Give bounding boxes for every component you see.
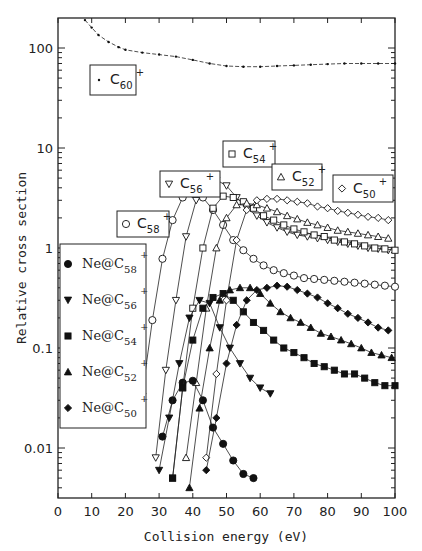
series-line: [173, 294, 395, 479]
square-marker: [341, 371, 347, 377]
diamond-marker: [223, 360, 230, 367]
dot-marker: [360, 62, 362, 64]
dot-marker: [192, 59, 194, 61]
square-marker: [301, 355, 307, 361]
triangle-up-marker: [297, 319, 304, 325]
triangle-up-marker: [287, 314, 294, 320]
triangle-up-marker: [213, 244, 220, 250]
x-tick-label: 0: [54, 504, 62, 519]
triangle-up-marker: [294, 215, 301, 221]
diamond-marker: [314, 203, 321, 210]
circle-marker: [381, 282, 388, 289]
circle-marker: [209, 424, 216, 431]
square-marker: [301, 229, 307, 235]
circle-marker: [220, 440, 227, 447]
circle-marker: [149, 317, 156, 324]
label-box-c58: C58 +: [117, 211, 171, 237]
square-marker: [372, 380, 378, 386]
triangle-down-marker: [257, 385, 264, 391]
square-marker: [250, 319, 256, 325]
diamond-marker: [364, 319, 371, 326]
diamond-marker: [294, 198, 301, 205]
triangle-up-marker: [337, 336, 344, 342]
dot-marker: [141, 51, 143, 53]
circle-marker: [351, 279, 358, 286]
y-axis-title: Relative cross section: [14, 172, 29, 344]
triangle-up-marker: [317, 330, 324, 336]
diamond-marker: [354, 314, 361, 321]
dot-marker: [394, 62, 396, 64]
series-nec54: [170, 291, 399, 482]
square-marker: [362, 375, 368, 381]
square-marker: [210, 205, 216, 211]
square-marker: [341, 239, 347, 245]
triangle-down-marker: [267, 391, 274, 397]
circle-marker: [230, 457, 237, 464]
x-tick-label: 50: [218, 504, 235, 519]
dot-marker: [97, 34, 99, 36]
triangle-down-marker: [253, 213, 260, 219]
triangle-up-marker: [304, 219, 311, 225]
x-tick-label: 10: [83, 504, 100, 519]
square-marker: [230, 297, 236, 303]
triangle-up-marker: [273, 208, 280, 214]
square-marker: [291, 226, 297, 232]
triangle-down-marker: [152, 455, 159, 461]
circle-marker: [361, 280, 368, 287]
triangle-up-marker: [186, 484, 193, 490]
triangle-up-marker: [368, 349, 375, 355]
triangle-up-marker: [358, 344, 365, 350]
square-marker: [200, 305, 206, 311]
diamond-marker: [304, 200, 311, 207]
square-marker: [352, 371, 358, 377]
diamond-marker: [385, 217, 392, 224]
dot-marker: [293, 64, 295, 66]
triangle-down-marker: [236, 361, 243, 367]
y-tick-label: 0.1: [32, 341, 53, 356]
square-marker: [271, 217, 277, 223]
x-tick-label: 20: [117, 504, 134, 519]
triangle-down-marker: [273, 225, 280, 231]
diamond-marker: [263, 195, 270, 202]
diamond-marker: [273, 282, 280, 289]
dot-marker: [242, 66, 244, 68]
circle-marker: [341, 278, 348, 285]
dot-marker: [225, 65, 227, 67]
dot-marker: [98, 79, 100, 81]
square-marker: [230, 194, 236, 200]
square-marker: [291, 350, 297, 356]
diamond-marker: [213, 370, 220, 377]
label-box-c50: C50 +: [333, 175, 393, 202]
square-marker: [261, 327, 267, 333]
x-tick-label: 90: [353, 504, 370, 519]
square-marker: [200, 245, 206, 251]
dot-marker: [84, 19, 86, 21]
series-line: [206, 286, 388, 471]
diamond-marker: [354, 211, 361, 218]
square-marker: [210, 294, 216, 300]
square-marker: [382, 383, 388, 389]
series-nec52: [186, 284, 395, 490]
diamond-marker: [294, 286, 301, 293]
dot-marker: [124, 49, 126, 51]
circle-marker: [280, 270, 287, 277]
triangle-up-marker: [348, 340, 355, 346]
series-line: [85, 20, 395, 67]
circle-marker: [300, 275, 307, 282]
diamond-marker: [344, 310, 351, 317]
circle-marker: [331, 277, 338, 284]
diamond-marker: [233, 321, 240, 328]
y-tick-label: 100: [28, 41, 53, 56]
square-marker: [220, 291, 226, 297]
square-marker: [331, 237, 337, 243]
label-box-c52: C52 +: [272, 164, 326, 190]
square-marker: [321, 364, 327, 370]
square-marker: [281, 345, 287, 351]
x-tick-label: 30: [151, 504, 168, 519]
triangle-down-marker: [193, 197, 200, 203]
triangle-down-marker: [284, 229, 291, 235]
triangle-down-marker: [186, 315, 193, 321]
dot-marker: [259, 66, 261, 68]
square-marker: [170, 475, 176, 481]
circle-marker: [240, 247, 247, 254]
